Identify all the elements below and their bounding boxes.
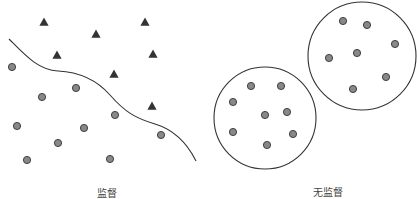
circle-point-icon xyxy=(349,85,356,92)
supervised-panel xyxy=(8,17,196,163)
circle-point-icon xyxy=(106,155,113,162)
circle-point-icon xyxy=(391,40,398,47)
triangle-point-icon xyxy=(140,17,149,25)
circle-point-icon xyxy=(283,108,290,115)
circle-point-icon xyxy=(353,49,360,56)
circle-point-icon xyxy=(339,17,346,24)
diagram-canvas xyxy=(0,0,417,199)
circle-point-icon xyxy=(23,156,30,163)
triangle-point-icon xyxy=(39,17,48,25)
triangle-point-icon xyxy=(148,49,157,57)
cluster-boundary xyxy=(308,2,416,110)
triangle-point-icon xyxy=(147,101,156,109)
unsupervised-caption: 无监督 xyxy=(313,184,343,199)
circle-point-icon xyxy=(289,130,296,137)
circle-point-icon xyxy=(8,63,15,70)
circle-point-icon xyxy=(229,128,236,135)
circle-point-icon xyxy=(277,82,284,89)
circle-point-icon xyxy=(72,84,79,91)
circle-point-icon xyxy=(325,54,332,61)
circle-point-icon xyxy=(247,82,254,89)
triangle-point-icon xyxy=(109,69,118,77)
circle-point-icon xyxy=(80,124,87,131)
circle-point-icon xyxy=(363,21,370,28)
circle-point-icon xyxy=(382,73,389,80)
circle-point-icon xyxy=(157,131,164,138)
circle-point-icon xyxy=(13,122,20,129)
circle-point-icon xyxy=(54,139,61,146)
decision-boundary xyxy=(9,39,196,161)
triangle-point-icon xyxy=(91,29,100,37)
triangle-point-icon xyxy=(52,50,61,58)
circle-point-icon xyxy=(261,111,268,118)
supervised-caption: 监督 xyxy=(97,185,117,199)
circle-point-icon xyxy=(263,141,270,148)
circle-point-icon xyxy=(38,93,45,100)
circle-point-icon xyxy=(111,111,118,118)
circle-point-icon xyxy=(229,98,236,105)
unsupervised-panel xyxy=(214,2,416,169)
